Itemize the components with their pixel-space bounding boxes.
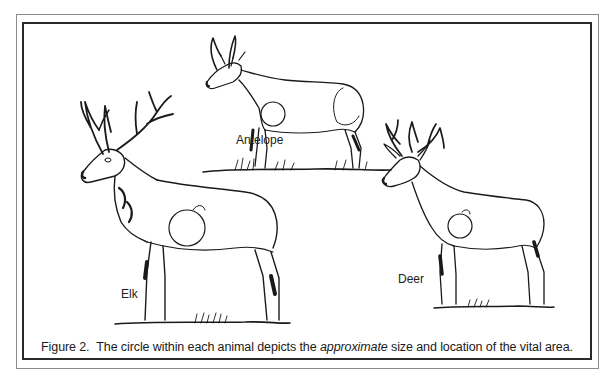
elk-illustration — [75, 92, 295, 332]
caption-text-before: The circle within each animal depicts th… — [96, 340, 320, 354]
deer-illustration — [378, 116, 558, 316]
figure-number: Figure 2. — [41, 340, 89, 354]
caption-emphasis: approximate — [320, 340, 388, 354]
figure-caption: Figure 2. The circle within each animal … — [22, 340, 592, 354]
deer-label: Deer — [398, 272, 424, 286]
elk-label: Elk — [121, 287, 138, 301]
caption-text-after: size and location of the vital area. — [388, 340, 573, 354]
